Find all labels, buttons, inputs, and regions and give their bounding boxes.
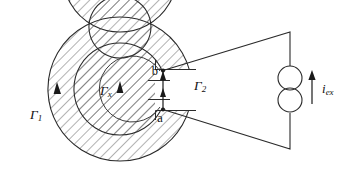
label-gamma2-sub: 2 bbox=[202, 84, 207, 94]
diagram-svg: Γ1 Γx Γ2 b a iex bbox=[0, 0, 355, 179]
label-point-a: a bbox=[157, 111, 163, 125]
label-current: iex bbox=[322, 81, 334, 97]
wire-bottom bbox=[163, 110, 290, 150]
current-direction-arrow bbox=[308, 70, 315, 104]
label-gamma1-sub: 1 bbox=[38, 113, 43, 123]
figure-container: Γ1 Γx Γ2 b a iex bbox=[0, 0, 355, 179]
current-source-symbol bbox=[278, 66, 302, 112]
source-circle-upper bbox=[278, 66, 302, 90]
source-circle-lower bbox=[278, 88, 302, 112]
wire-top bbox=[163, 32, 290, 71]
label-current-sub: ex bbox=[326, 87, 334, 97]
label-point-b: b bbox=[152, 64, 158, 78]
label-gamma1: Γ1 bbox=[29, 107, 42, 123]
label-gammax-sub: x bbox=[107, 89, 112, 99]
